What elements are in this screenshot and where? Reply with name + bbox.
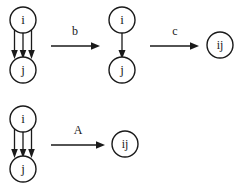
transform-b-label: b xyxy=(72,24,78,38)
edge-single-i-to-j xyxy=(119,33,126,59)
stage-merged-node-2: ij xyxy=(112,131,138,157)
edge-arrowhead-left xyxy=(11,149,18,158)
row-bottom: i j A ij xyxy=(10,106,138,182)
stage-single-edge-graph: i j xyxy=(109,7,135,83)
stage-multi-edge-graph: i j xyxy=(10,7,36,83)
transform-arrow-A: A xyxy=(51,123,105,149)
row-top: i j b i j xyxy=(10,7,233,83)
node-j: j xyxy=(109,57,135,83)
graph-rewriting-diagram: i j b i j xyxy=(0,0,245,193)
transform-arrow-c: c xyxy=(150,24,199,50)
node-j: j xyxy=(10,156,36,182)
transform-A-arrowhead xyxy=(96,141,105,149)
edge-arrowhead-right xyxy=(28,149,35,158)
edge-arrowhead-left xyxy=(11,50,18,59)
node-j-circle xyxy=(109,57,135,83)
node-j: j xyxy=(10,57,36,83)
node-j-circle xyxy=(10,156,36,182)
transform-A-label: A xyxy=(74,123,83,137)
node-j-circle xyxy=(10,57,36,83)
edge-arrowhead-right xyxy=(28,50,35,59)
node-i-circle xyxy=(10,106,36,132)
transform-b-arrowhead xyxy=(91,42,100,50)
node-i: i xyxy=(10,106,36,132)
transform-c-arrowhead xyxy=(190,42,199,50)
node-ij-circle xyxy=(207,32,233,58)
transform-arrow-b: b xyxy=(51,24,100,50)
stage-merged-node: ij xyxy=(207,32,233,58)
node-i: i xyxy=(109,7,135,33)
node-i-circle xyxy=(109,7,135,33)
node-i-circle xyxy=(10,7,36,33)
node-i: i xyxy=(10,7,36,33)
stage-multi-edge-graph-2: i j xyxy=(10,106,36,182)
node-ij-circle xyxy=(112,131,138,157)
transform-c-label: c xyxy=(172,24,177,38)
